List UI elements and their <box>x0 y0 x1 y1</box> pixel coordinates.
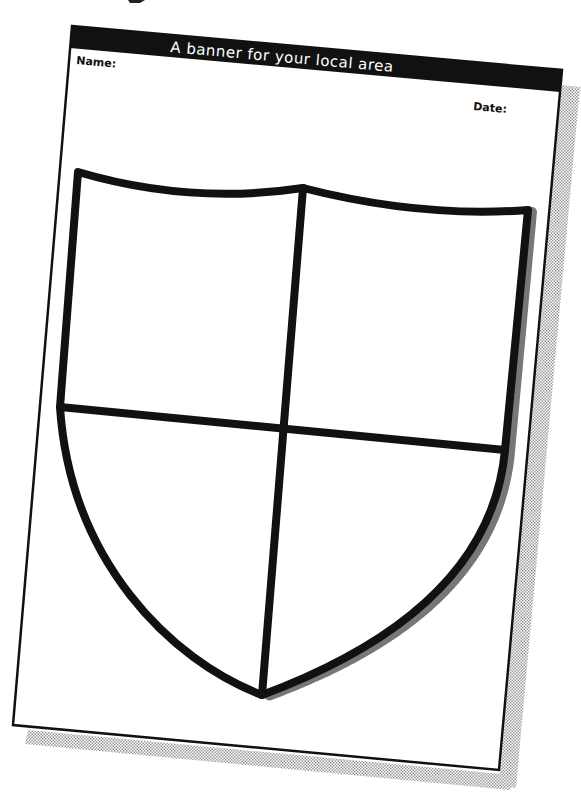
shield-quadrant-top-left[interactable] <box>66 180 298 424</box>
clipped-artifact <box>128 0 145 3</box>
worksheet-canvas: A banner for your local area Name: Date: <box>0 0 581 804</box>
shield-quadrant-top-right[interactable] <box>287 196 522 445</box>
